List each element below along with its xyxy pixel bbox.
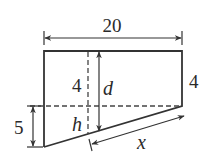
left-lower-dimension: 5 bbox=[14, 106, 43, 147]
slant-dimension: x bbox=[89, 116, 184, 153]
width-label: 20 bbox=[103, 15, 122, 36]
slant-tick bbox=[89, 139, 92, 151]
height-label: h bbox=[72, 113, 82, 135]
depth-label: d bbox=[103, 77, 114, 99]
depth-dimension: d bbox=[99, 52, 114, 131]
shape-outline bbox=[44, 51, 182, 147]
trapezoid-diagram: 20 d 4 4 h 5 x bbox=[0, 0, 210, 158]
width-dimension: 20 bbox=[44, 15, 182, 45]
left-lower-height-label: 5 bbox=[14, 117, 24, 138]
right-height-label: 4 bbox=[189, 71, 199, 92]
trapezoid-outline bbox=[44, 51, 182, 147]
slant-label: x bbox=[136, 131, 146, 153]
left-upper-height-label: 4 bbox=[72, 75, 82, 96]
